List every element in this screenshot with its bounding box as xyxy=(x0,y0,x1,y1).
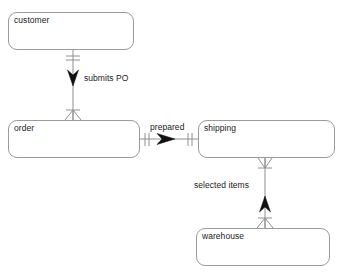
entity-warehouse[interactable]: warehouse xyxy=(196,228,330,266)
cardinality-crowsfoot-warehouse xyxy=(257,218,273,228)
erd-diagram-canvas: customer order shipping warehouse submit… xyxy=(0,0,343,278)
entity-label-warehouse: warehouse xyxy=(202,231,244,242)
relationship-prepared[interactable] xyxy=(140,133,198,146)
direction-arrowhead-down xyxy=(68,70,79,86)
relationship-label-selected-items: selected items xyxy=(194,180,249,191)
relationship-submits-po[interactable] xyxy=(65,50,81,120)
entity-label-customer: customer xyxy=(14,15,49,26)
relationship-selected-items[interactable] xyxy=(257,158,273,228)
cardinality-crowsfoot-order xyxy=(65,110,81,120)
entity-label-order: order xyxy=(14,123,34,134)
entity-label-shipping: shipping xyxy=(204,123,236,134)
entity-customer[interactable]: customer xyxy=(8,12,134,50)
cardinality-crowsfoot-shipping xyxy=(258,158,272,168)
direction-arrowhead-up xyxy=(260,196,271,212)
entity-order[interactable]: order xyxy=(8,120,140,158)
direction-arrowhead-right xyxy=(157,134,175,145)
relationship-label-prepared: prepared xyxy=(150,122,184,133)
entity-shipping[interactable]: shipping xyxy=(198,120,335,158)
relationship-label-submits-po: submits PO xyxy=(84,73,128,84)
